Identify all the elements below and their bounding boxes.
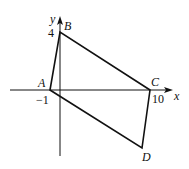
- tick-label-4: 4: [48, 26, 54, 40]
- tick-label-neg1: −1: [36, 93, 49, 107]
- point-label-c: C: [151, 75, 160, 89]
- parallelogram-diagram: y 4 B A −1 C 10 x D: [0, 0, 189, 169]
- point-label-a: A: [37, 76, 46, 90]
- tick-label-10: 10: [152, 92, 164, 106]
- point-label-d: D: [141, 150, 151, 164]
- diagram-canvas: y 4 B A −1 C 10 x D: [0, 0, 189, 169]
- x-axis-label: x: [173, 89, 180, 103]
- y-axis-label: y: [49, 12, 56, 26]
- point-label-b: B: [64, 19, 72, 33]
